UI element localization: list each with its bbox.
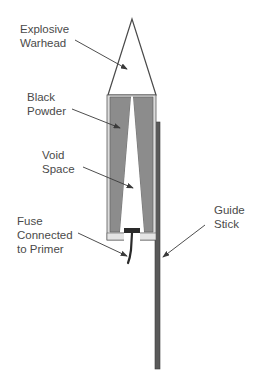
warhead-cone bbox=[108, 19, 156, 95]
label-guide-stick: Guide Stick bbox=[214, 203, 245, 231]
warhead-arrow bbox=[75, 40, 127, 69]
label-black-powder: Black Powder bbox=[27, 90, 66, 118]
label-void-space: Void Space bbox=[42, 148, 75, 176]
stick-arrow bbox=[163, 225, 205, 257]
label-explosive-warhead: Explosive Warhead bbox=[20, 22, 69, 50]
rocket-diagram bbox=[0, 0, 256, 385]
label-fuse-connected-to-primer: Fuse Connected to Primer bbox=[17, 214, 73, 256]
